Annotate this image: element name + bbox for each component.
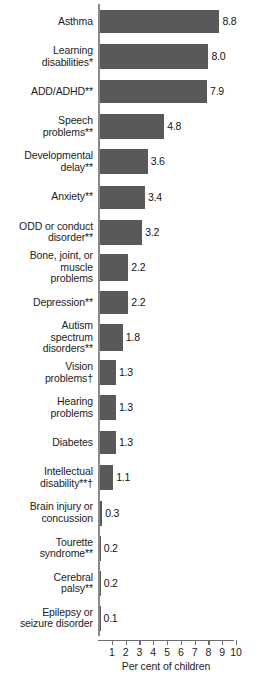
bar: [98, 149, 148, 174]
category-label: Hearing problems: [0, 396, 98, 419]
bar: [98, 431, 116, 454]
x-tick-label: 5: [164, 646, 170, 658]
bar-row: Vision problems†1.3: [0, 355, 257, 390]
bar-row: Developmental delay**3.6: [0, 144, 257, 179]
bar-zone: 1.3: [98, 390, 257, 425]
x-axis-title: Per cent of children: [98, 660, 234, 672]
x-tick-label: 2: [123, 646, 129, 658]
value-label: 0.1: [104, 613, 118, 624]
x-tick: [139, 640, 140, 645]
category-label: Asthma: [0, 16, 98, 28]
bar-zone: 8.8: [98, 4, 257, 39]
x-tick: [126, 640, 127, 645]
bar-zone: 0.2: [98, 566, 257, 601]
value-label: 2.2: [131, 297, 145, 308]
bar-row: Autism spectrum disorders**1.8: [0, 320, 257, 355]
plot-area: Asthma8.8Learning disabilities*8.0ADD/AD…: [0, 4, 257, 636]
bar-zone: 1.3: [98, 355, 257, 390]
bar-zone: 7.9: [98, 74, 257, 109]
category-label: Vision problems†: [0, 361, 98, 384]
value-label: 1.3: [119, 437, 133, 448]
value-label: 3.6: [151, 156, 165, 167]
bar-zone: 1.8: [98, 320, 257, 355]
bar: [98, 324, 123, 351]
value-label: 3.4: [148, 192, 162, 203]
bar: [98, 254, 128, 281]
bar-row: Learning disabilities*8.0: [0, 39, 257, 74]
category-label: Anxiety**: [0, 191, 98, 203]
bar-zone: 3.4: [98, 180, 257, 215]
category-label: Cerebral palsy**: [0, 572, 98, 595]
bar-row: Cerebral palsy**0.2: [0, 566, 257, 601]
value-label: 8.0: [211, 51, 225, 62]
x-tick-label: 9: [219, 646, 225, 658]
bar-row: Epilepsy or seizure disorder0.1: [0, 601, 257, 636]
category-label: Depression**: [0, 297, 98, 309]
category-label: Developmental delay**: [0, 150, 98, 173]
x-tick-label: 6: [178, 646, 184, 658]
x-tick: [208, 640, 209, 645]
value-label: 0.2: [104, 578, 118, 589]
bar-row: Hearing problems1.3: [0, 390, 257, 425]
bar-row: Tourette syndrome**0.2: [0, 531, 257, 566]
category-label: ADD/ADHD**: [0, 86, 98, 98]
category-label: Brain injury or concussion: [0, 501, 98, 524]
x-tick-label: 10: [230, 646, 241, 658]
x-tick: [195, 640, 196, 645]
y-axis-spine: [98, 4, 100, 636]
value-label: 3.2: [145, 227, 159, 238]
bar-zone: 0.1: [98, 601, 257, 636]
value-label: 7.9: [210, 86, 224, 97]
bar: [98, 220, 142, 245]
x-tick: [167, 640, 168, 645]
x-tick-label: 7: [192, 646, 198, 658]
bar: [98, 186, 145, 209]
bar: [98, 114, 164, 139]
bar-zone: 3.2: [98, 215, 257, 250]
category-label: Tourette syndrome**: [0, 537, 98, 560]
value-label: 0.2: [104, 543, 118, 554]
bar: [98, 10, 219, 33]
bar-zone: 2.2: [98, 285, 257, 320]
category-label: Intellectual disability**†: [0, 466, 98, 489]
value-label: 1.3: [119, 367, 133, 378]
bar-row: Asthma8.8: [0, 4, 257, 39]
x-tick: [181, 640, 182, 645]
bar-row: ODD or conduct disorder**3.2: [0, 215, 257, 250]
category-label: Learning disabilities*: [0, 45, 98, 68]
x-tick-label: 3: [137, 646, 143, 658]
bar: [98, 44, 208, 69]
x-tick: [222, 640, 223, 645]
category-label: Autism spectrum disorders**: [0, 320, 98, 355]
bar-zone: 2.2: [98, 250, 257, 285]
x-tick-label: 8: [206, 646, 212, 658]
x-axis-line: [98, 640, 234, 641]
x-tick: [236, 640, 237, 645]
bar-row: Anxiety**3.4: [0, 180, 257, 215]
bar-row: ADD/ADHD**7.9: [0, 74, 257, 109]
category-label: Bone, joint, or muscle problems: [0, 250, 98, 285]
x-tick: [153, 640, 154, 645]
bar: [98, 291, 128, 314]
bar-chart: Asthma8.8Learning disabilities*8.0ADD/AD…: [0, 0, 257, 683]
value-label: 1.8: [126, 332, 140, 343]
bar-zone: 4.8: [98, 109, 257, 144]
value-label: 1.1: [116, 472, 130, 483]
x-axis: 12345678910 Per cent of children: [98, 640, 238, 682]
bar-zone: 8.0: [98, 39, 257, 74]
value-label: 4.8: [167, 121, 181, 132]
bar-zone: 0.2: [98, 531, 257, 566]
value-label: 2.2: [131, 262, 145, 273]
bar-zone: 3.6: [98, 144, 257, 179]
x-tick: [112, 640, 113, 645]
bar-row: Brain injury or concussion0.3: [0, 496, 257, 531]
bar-row: Intellectual disability**†1.1: [0, 460, 257, 495]
category-label: ODD or conduct disorder**: [0, 221, 98, 244]
category-label: Diabetes: [0, 437, 98, 449]
value-label: 0.3: [105, 508, 119, 519]
category-label: Speech problems**: [0, 115, 98, 138]
bar-row: Speech problems**4.8: [0, 109, 257, 144]
bar-row: Bone, joint, or muscle problems2.2: [0, 250, 257, 285]
category-label: Epilepsy or seizure disorder: [0, 607, 98, 630]
bar-zone: 1.1: [98, 460, 257, 495]
